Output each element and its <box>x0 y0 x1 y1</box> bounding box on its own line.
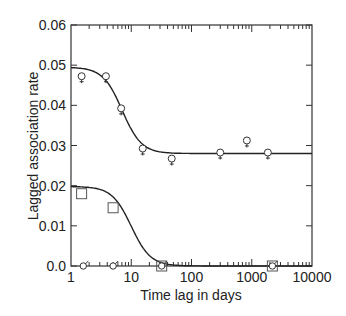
y-tick-label: 0.02 <box>39 178 66 194</box>
male-marker <box>269 261 277 269</box>
axis-ticks <box>71 25 312 266</box>
y-axis-title: Lagged association rate <box>25 71 41 220</box>
female-marker <box>78 73 85 84</box>
female-marker <box>217 149 224 160</box>
fit-curves <box>71 68 312 266</box>
x-tick-label: 10 <box>123 269 139 285</box>
x-tick-label: 100 <box>180 269 204 285</box>
square-marker <box>108 203 118 213</box>
y-tick-label: 0.03 <box>39 138 66 154</box>
y-tick-label: 0.0 <box>47 258 67 274</box>
male-marker <box>110 261 118 269</box>
upper-fit-curve <box>71 68 312 154</box>
data-points <box>77 73 278 271</box>
y-tick-label: 0.01 <box>39 218 66 234</box>
female-marker <box>139 145 146 156</box>
female-marker <box>264 149 271 160</box>
female-marker <box>243 137 250 148</box>
square-marker <box>77 189 87 199</box>
y-tick-label: 0.04 <box>39 97 66 113</box>
plot-border <box>71 25 312 266</box>
plot-frame <box>71 25 312 266</box>
male-marker <box>80 261 88 269</box>
y-tick-label: 0.05 <box>39 57 66 73</box>
x-tick-label: 1 <box>67 269 75 285</box>
lower-fit-curve <box>71 187 312 266</box>
female-marker <box>168 155 175 166</box>
female-marker <box>102 73 109 84</box>
x-axis-title: Time lag in days <box>140 287 241 303</box>
y-tick-label: 0.06 <box>39 17 66 33</box>
x-tick-label: 1000 <box>236 269 267 285</box>
axis-labels: 1101001000100000.00.010.020.030.040.050.… <box>39 17 332 285</box>
x-tick-label: 10000 <box>293 269 332 285</box>
lagged-association-chart: 1101001000100000.00.010.020.030.040.050.… <box>0 0 346 316</box>
